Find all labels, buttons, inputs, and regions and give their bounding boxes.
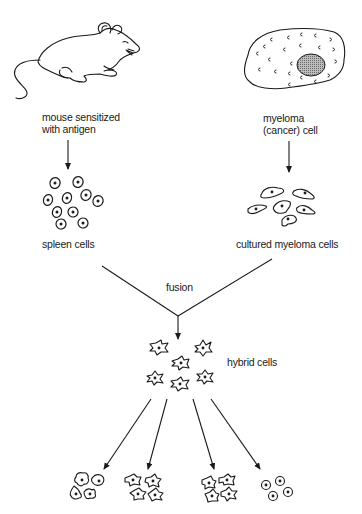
myeloma-cell-icon xyxy=(245,29,345,89)
clone-cluster-icon xyxy=(262,477,293,501)
hybrid-cells-icon xyxy=(147,340,213,391)
clone-cluster-icon xyxy=(125,474,163,501)
label-spleen-cells: spleen cells xyxy=(42,238,94,250)
clone-cluster-icon xyxy=(70,473,104,499)
label-myeloma-line1: myeloma xyxy=(263,112,318,124)
arrow-hybrid-to-clone3 xyxy=(193,399,214,469)
mouse-icon xyxy=(14,23,139,99)
arrow-hybrid-to-clone1 xyxy=(104,399,151,469)
diagram-canvas xyxy=(0,0,362,514)
cultured-myeloma-cells-icon xyxy=(248,187,315,226)
clone-cluster-icon xyxy=(202,474,237,502)
spleen-cells-icon xyxy=(42,175,105,230)
arrow-hybrid-to-clone2 xyxy=(148,399,167,469)
label-mouse: mouse sensitized with antigen xyxy=(42,111,120,135)
arrow-hybrid-to-clone4 xyxy=(211,399,260,469)
label-hybrid-cells: hybrid cells xyxy=(227,356,277,368)
label-fusion: fusion xyxy=(166,281,193,293)
label-mouse-line2: with antigen xyxy=(42,123,120,135)
label-cultured-myeloma-cells: cultured myeloma cells xyxy=(236,238,338,250)
label-mouse-line1: mouse sensitized xyxy=(42,111,120,123)
label-myeloma-line2: (cancer) cell xyxy=(263,124,318,136)
label-myeloma: myeloma (cancer) cell xyxy=(263,112,318,136)
